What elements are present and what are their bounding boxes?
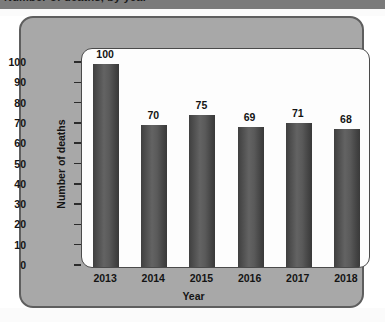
page-bottom-fill	[0, 308, 385, 322]
y-axis-tick-label: 30	[0, 198, 26, 210]
y-axis-tick-mark	[74, 244, 81, 246]
page-gap	[0, 9, 385, 16]
bar	[141, 125, 167, 267]
y-axis-tick-mark	[74, 264, 81, 266]
bar	[286, 123, 312, 267]
y-axis-tick-label: 40	[0, 178, 26, 190]
y-axis-title: Number of deaths	[55, 84, 67, 244]
y-axis-tick-mark	[74, 183, 81, 185]
y-axis-tick-label: 60	[0, 137, 26, 149]
y-axis-tick-mark	[74, 203, 81, 205]
y-axis-tick-label: 0	[0, 259, 26, 271]
x-axis-tick-label: 2018	[318, 272, 374, 284]
bar-value-label: 68	[321, 113, 371, 125]
y-axis-tick-mark	[74, 61, 81, 63]
y-axis-tick-label: 20	[0, 218, 26, 230]
y-axis-tick-mark	[74, 82, 81, 84]
bar	[238, 127, 264, 267]
x-axis-title: Year	[21, 290, 366, 302]
clipped-header-title: Number of deaths, by year	[4, 0, 147, 3]
y-axis-tick-mark	[74, 142, 81, 144]
y-axis-tick-mark	[74, 224, 81, 226]
bar-value-label: 69	[225, 111, 275, 123]
bar-value-label: 71	[273, 107, 323, 119]
bar-chart: 0102030405060708090100 Number of deaths …	[19, 16, 364, 308]
clipped-header-strip: Number of deaths, by year	[0, 0, 385, 9]
y-axis-tick-mark	[74, 122, 81, 124]
y-axis-tick-label: 90	[0, 76, 26, 88]
bar-value-label: 75	[176, 99, 226, 111]
y-axis-tick-label: 100	[0, 56, 26, 68]
y-axis-tick-label: 70	[0, 117, 26, 129]
y-axis-tick-mark	[74, 163, 81, 165]
bar-value-label: 100	[80, 48, 130, 60]
plot-area	[81, 48, 370, 268]
bar-value-label: 70	[128, 109, 178, 121]
bar	[189, 115, 215, 267]
bar	[93, 64, 119, 267]
y-axis-tick-label: 10	[0, 239, 26, 251]
y-axis-tick-mark	[74, 102, 81, 104]
bar	[334, 129, 360, 267]
y-axis-tick-label: 50	[0, 158, 26, 170]
y-axis-tick-label: 80	[0, 97, 26, 109]
